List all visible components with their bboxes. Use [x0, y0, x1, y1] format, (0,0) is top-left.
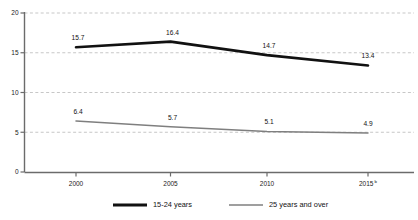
data-label: 14.7 [263, 42, 276, 49]
series-data-labels: 15.716.414.713.46.45.75.14.9 [72, 29, 375, 127]
series-line-2 [76, 121, 368, 133]
legend-label: 25 years and over [269, 200, 329, 209]
data-label: 4.9 [363, 120, 372, 127]
x-tick-label: 2000 [69, 180, 84, 187]
y-tick-label: 10 [11, 89, 19, 96]
gridlines [25, 13, 415, 132]
y-tick-label: 5 [15, 129, 19, 136]
data-label: 16.4 [166, 29, 179, 36]
series-lines [76, 42, 368, 133]
data-label: 5.1 [264, 118, 273, 125]
x-tick-label: 2010 [260, 180, 275, 187]
legend-label: 15-24 years [153, 200, 192, 209]
x-tick-label: 2005 [163, 180, 178, 187]
x-tick-footnote: b [373, 179, 377, 184]
series-line-1 [76, 42, 368, 66]
line-chart: 05101520 2000200520102015 b 15.716.414.7… [0, 0, 418, 220]
y-axis-ticks: 05101520 [11, 9, 24, 175]
x-axis-ticks: 2000200520102015 b [69, 172, 378, 187]
y-tick-label: 20 [11, 9, 19, 16]
data-label: 13.4 [362, 52, 375, 59]
x-tick-label: 2015 b [359, 179, 378, 187]
data-label: 15.7 [72, 34, 85, 41]
data-label: 6.4 [73, 108, 82, 115]
y-tick-label: 0 [15, 168, 19, 175]
chart-plot-area: 05101520 2000200520102015 b 15.716.414.7… [0, 0, 418, 220]
data-label: 5.7 [168, 114, 177, 121]
chart-legend: 15-24 years25 years and over [113, 200, 329, 209]
y-tick-label: 15 [11, 49, 19, 56]
